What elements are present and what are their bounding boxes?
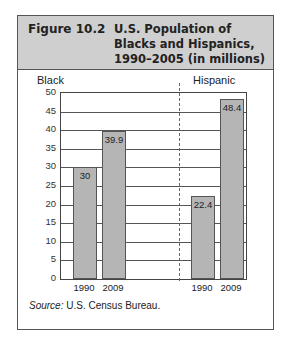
- group-label-hispanic: Hispanic: [193, 74, 235, 86]
- bar-value-label: 48.4: [221, 102, 243, 113]
- bar-black-2009: 39.9: [102, 131, 126, 279]
- y-tick-label: 10: [36, 235, 56, 246]
- gridline: [61, 149, 246, 150]
- y-tick-label: 15: [36, 216, 56, 227]
- y-tick-label: 5: [36, 253, 56, 264]
- bar-value-label: 22.4: [192, 199, 214, 210]
- y-tick-label: 40: [36, 123, 56, 134]
- gridline: [61, 130, 246, 131]
- y-tick-label: 50: [36, 86, 56, 97]
- bar-black-1990: 30: [73, 167, 97, 279]
- figure-header: Figure 10.2 U.S. Population of Blacks an…: [18, 16, 273, 70]
- figure-number: Figure 10.2: [28, 22, 105, 36]
- figure-title: U.S. Population of Blacks and Hispanics,…: [114, 22, 274, 67]
- x-tick-label: 1990: [187, 282, 217, 293]
- group-divider: [179, 83, 180, 281]
- bar-value-label: 30: [74, 170, 96, 181]
- gridline: [61, 112, 246, 113]
- title-line-2: Blacks and Hispanics,: [114, 37, 274, 52]
- group-label-black: Black: [37, 74, 64, 86]
- figure-frame: Figure 10.2 U.S. Population of Blacks an…: [17, 15, 274, 330]
- y-tick-label: 45: [36, 105, 56, 116]
- source-label: Source:: [29, 300, 63, 311]
- x-tick-label: 2009: [98, 282, 128, 293]
- x-tick-label: 2009: [216, 282, 246, 293]
- y-tick-label: 35: [36, 142, 56, 153]
- y-tick-label: 0: [36, 272, 56, 283]
- source-note: Source: U.S. Census Bureau.: [29, 300, 160, 311]
- bar-hispanic-1990: 22.4: [191, 196, 215, 279]
- bar-value-label: 39.9: [103, 134, 125, 145]
- title-line-3: 1990–2005 (in millions): [114, 52, 274, 67]
- y-tick-label: 20: [36, 198, 56, 209]
- x-tick-label: 1990: [69, 282, 99, 293]
- y-tick-label: 25: [36, 179, 56, 190]
- y-tick-label: 30: [36, 160, 56, 171]
- title-line-1: U.S. Population of: [114, 22, 274, 37]
- source-text: U.S. Census Bureau.: [63, 300, 160, 311]
- plot-area: 3039.922.448.4: [60, 92, 247, 280]
- bar-hispanic-2009: 48.4: [220, 99, 244, 279]
